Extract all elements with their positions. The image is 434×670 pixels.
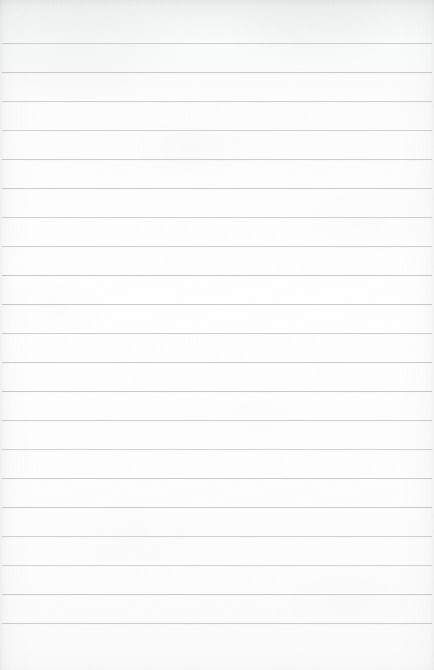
paper-background [0, 0, 434, 670]
scanned-ruled-paper-page: Blank ruled notebook page [0, 0, 434, 670]
